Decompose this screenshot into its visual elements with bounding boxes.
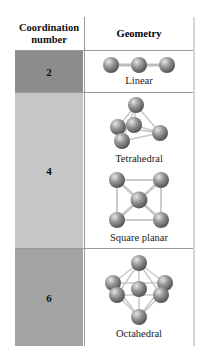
- header-coordination-line1: Coordination: [19, 22, 79, 34]
- geometry-label: Octahedral: [85, 328, 193, 339]
- geometry-label: Linear: [85, 75, 193, 86]
- coordination-number-cell: 4: [15, 93, 83, 248]
- octahedral-molecule-icon: [99, 251, 179, 329]
- linear-molecule-icon: [99, 54, 179, 76]
- geometry-cell: Tetrahedral Square planar: [84, 93, 193, 248]
- table-row-cn-2: 2 Linear: [15, 51, 193, 93]
- coordination-number-cell: 6: [15, 249, 83, 346]
- geometry-cell: Linear: [84, 51, 193, 92]
- header-geometry: Geometry: [84, 17, 193, 50]
- header-coordination-line2: number: [19, 34, 79, 46]
- square-planar-molecule-icon: [104, 169, 174, 231]
- coordination-number-cell: 2: [15, 51, 83, 92]
- header-coordination-number: Coordination number: [15, 17, 83, 50]
- tetrahedral-molecule-icon: [104, 95, 174, 155]
- table-row-cn-6: 6: [15, 249, 193, 346]
- table-row-cn-4: 4 Tetrahedral: [15, 93, 193, 249]
- table-header-row: Coordination number Geometry: [15, 17, 193, 51]
- coordination-geometry-table: Coordination number Geometry 2 Linear 4: [15, 17, 195, 346]
- geometry-cell: Octahedral: [84, 249, 193, 346]
- geometry-label: Square planar: [85, 232, 193, 243]
- geometry-label: Tetrahedral: [85, 153, 193, 164]
